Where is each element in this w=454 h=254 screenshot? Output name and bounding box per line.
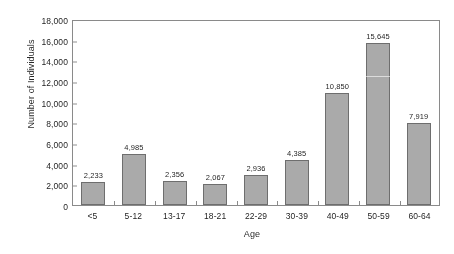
x-axis-title: Age [56, 229, 448, 239]
x-axis-tick-mark [196, 201, 197, 205]
x-axis-tick-mark [277, 201, 278, 205]
y-axis-tick-mark [73, 186, 77, 187]
plot-area: 2,2334,9852,3562,0672,9364,38510,85015,6… [72, 20, 440, 206]
y-axis-tick-label: 10,000 [41, 99, 73, 109]
y-axis-tick-mark [73, 165, 77, 166]
y-axis-tick-label: 8,000 [46, 119, 73, 129]
bar-group[interactable]: 4,985 [114, 21, 155, 205]
y-axis-tick-mark [73, 103, 77, 104]
bar[interactable] [163, 181, 187, 205]
bar[interactable] [122, 154, 146, 206]
x-axis-tick-label: 60-64 [408, 211, 430, 221]
y-axis-tick-label: 4,000 [46, 161, 73, 171]
y-axis-tick-label: 6,000 [46, 140, 73, 150]
bar-value-label: 2,356 [165, 170, 184, 179]
x-axis-tick-mark [114, 201, 115, 205]
x-axis-tick-mark [400, 201, 401, 205]
y-axis-tick-label: 16,000 [41, 37, 73, 47]
x-axis-tick-label: 50-59 [368, 211, 390, 221]
bar-series: 2,2334,9852,3562,0672,9364,38510,85015,6… [73, 21, 439, 205]
bar[interactable] [203, 184, 227, 205]
bar-value-label: 10,850 [326, 82, 350, 91]
bar[interactable] [366, 43, 390, 205]
bar-value-label: 2,233 [84, 171, 103, 180]
bar-group[interactable]: 2,233 [73, 21, 114, 205]
bar-group[interactable]: 2,356 [154, 21, 195, 205]
x-axis-tick-label: 22-29 [245, 211, 267, 221]
x-axis-tick-label: <5 [87, 211, 97, 221]
y-axis-tick-label: 2,000 [46, 181, 73, 191]
y-axis-tick-mark [73, 83, 77, 84]
x-axis-tick-mark [318, 201, 319, 205]
x-axis-tick-mark [155, 201, 156, 205]
y-axis-tick-mark [73, 41, 77, 42]
y-axis-tick-mark [73, 62, 77, 63]
y-axis-tick-label: 12,000 [41, 78, 73, 88]
bar-value-label: 15,645 [366, 32, 390, 41]
bar[interactable] [325, 93, 349, 205]
bar-value-label: 4,985 [124, 143, 143, 152]
bar-group[interactable]: 15,645 [358, 21, 399, 205]
bar-group[interactable]: 2,936 [236, 21, 277, 205]
y-axis-tick-label: 18,000 [41, 16, 73, 26]
x-axis-tick-label: 40-49 [327, 211, 349, 221]
bar-group[interactable]: 7,919 [398, 21, 439, 205]
y-axis-tick-mark [73, 124, 77, 125]
x-axis-tick-mark [237, 201, 238, 205]
bar[interactable] [244, 175, 268, 205]
y-axis-tick-mark [73, 145, 77, 146]
bar[interactable] [407, 123, 431, 205]
bar-group[interactable]: 10,850 [317, 21, 358, 205]
bar-chart-figure: Number of Individuals 2,2334,9852,3562,0… [0, 0, 454, 254]
scan-artifact [358, 76, 399, 77]
x-axis-tick-label: 18-21 [204, 211, 226, 221]
bar-group[interactable]: 2,067 [195, 21, 236, 205]
bar-value-label: 4,385 [287, 149, 306, 158]
x-axis-tick-label: 5-12 [125, 211, 142, 221]
y-axis-tick-label: 0 [63, 202, 73, 212]
x-axis-tick-label: 13-17 [163, 211, 185, 221]
x-axis-tick-label: 30-39 [286, 211, 308, 221]
bar[interactable] [285, 160, 309, 205]
bar-value-label: 7,919 [409, 112, 428, 121]
bar-value-label: 2,067 [206, 173, 225, 182]
y-axis-tick-label: 14,000 [41, 57, 73, 67]
bar-value-label: 2,936 [246, 164, 265, 173]
y-axis-title: Number of Individuals [24, 0, 38, 184]
x-axis-tick-mark [359, 201, 360, 205]
bar[interactable] [81, 182, 105, 205]
bar-group[interactable]: 4,385 [276, 21, 317, 205]
